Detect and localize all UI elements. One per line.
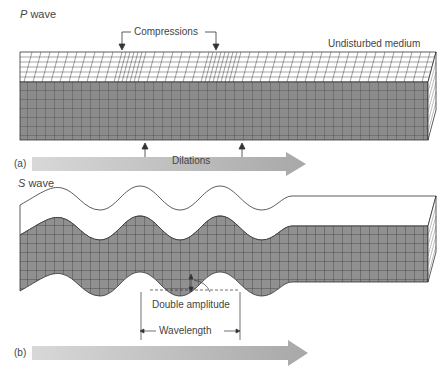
s-wave-title: S wave — [18, 177, 54, 189]
p-wave-title: P wave — [20, 8, 56, 20]
seismic-wave-diagram — [0, 0, 448, 374]
double-amplitude-label: Double amplitude — [152, 299, 230, 310]
s-wave-block — [20, 186, 436, 296]
wavelength-label: Wavelength — [159, 325, 211, 336]
s-wave-propagation-arrow — [32, 340, 308, 366]
undisturbed-medium-label: Undisturbed medium — [328, 38, 420, 49]
dilations-label: Dilations — [172, 155, 210, 166]
panel-b-label: (b) — [14, 347, 26, 358]
p-wave-block — [20, 52, 436, 140]
panel-a-label: (a) — [14, 158, 26, 169]
p-wave-propagation-arrow — [32, 152, 306, 176]
compressions-label: Compressions — [134, 26, 198, 37]
